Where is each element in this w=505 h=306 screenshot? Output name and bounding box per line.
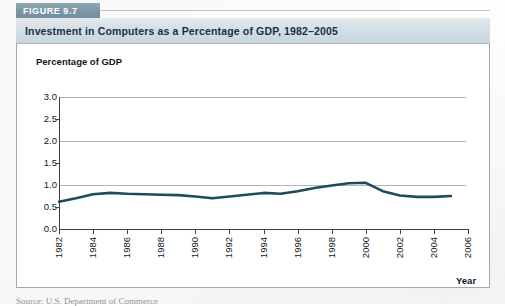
series-line-chart xyxy=(17,44,491,288)
header-rule xyxy=(100,10,490,11)
figure-number-label: FIGURE 9.7 xyxy=(23,6,78,16)
figure-title-band: Investment in Computers as a Percentage … xyxy=(16,18,490,44)
figure-title: Investment in Computers as a Percentage … xyxy=(25,25,338,37)
source-caption: Source: U.S. Department of Commerce xyxy=(16,296,158,306)
figure-number-tab: FIGURE 9.7 xyxy=(16,3,100,18)
plot-area: Percentage of GDP 3.02.52.01.51.00.50.0 … xyxy=(17,44,489,287)
series-polyline-investment xyxy=(59,183,451,202)
chart-frame: Percentage of GDP 3.02.52.01.51.00.50.0 … xyxy=(16,44,490,288)
